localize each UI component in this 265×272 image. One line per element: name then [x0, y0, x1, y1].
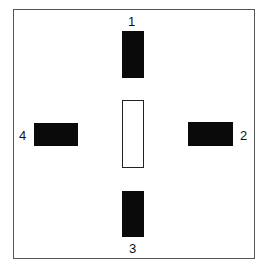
block-bottom — [122, 191, 144, 237]
block-left — [34, 123, 78, 146]
label-bottom: 3 — [129, 242, 136, 255]
label-right: 2 — [240, 129, 247, 142]
block-right — [188, 122, 233, 146]
label-top: 1 — [128, 15, 135, 28]
center-rectangle — [122, 100, 144, 168]
label-left: 4 — [19, 129, 26, 142]
block-top — [122, 31, 144, 78]
